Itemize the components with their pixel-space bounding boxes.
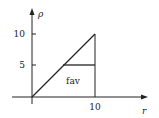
x-tick-label-10: 10 [89,102,101,112]
region-label-fav: fav [66,76,81,86]
y-axis-arrow-icon [30,8,35,15]
diagram-canvas: ρ r 10 5 10 fav [0,0,159,118]
x-axis-arrow-icon [141,95,148,100]
y-tick-label-5: 5 [19,60,25,70]
y-tick-label-10: 10 [14,29,26,39]
x-axis-label: r [142,106,147,116]
y-axis-label: ρ [37,9,44,19]
